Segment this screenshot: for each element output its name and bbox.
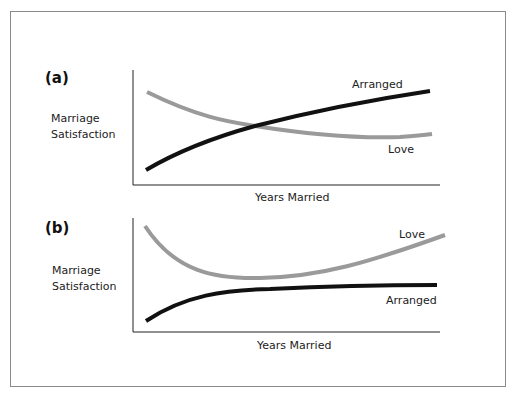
panel-b-ylabel-line1: Marriage [52,264,101,277]
panel-a: (a) Marriage Satisfaction Years Married … [45,69,440,204]
panel-b-label: (b) [45,219,69,237]
panel-a-ylabel-line2: Satisfaction [51,128,116,141]
panel-b-arranged-label: Arranged [386,294,437,307]
figure-canvas: (a) Marriage Satisfaction Years Married … [0,0,518,407]
panel-a-label: (a) [45,69,69,87]
panel-b-love-label: Love [399,228,425,241]
panel-b-xlabel: Years Married [256,339,331,352]
panel-a-love-label: Love [388,143,414,156]
panel-a-ylabel-line1: Marriage [51,112,100,125]
panel-b-ylabel-line2: Satisfaction [52,280,117,293]
panel-a-arranged-label: Arranged [352,78,403,91]
panel-b: (b) Marriage Satisfaction Years Married … [45,218,445,352]
panel-a-xlabel: Years Married [254,191,329,204]
